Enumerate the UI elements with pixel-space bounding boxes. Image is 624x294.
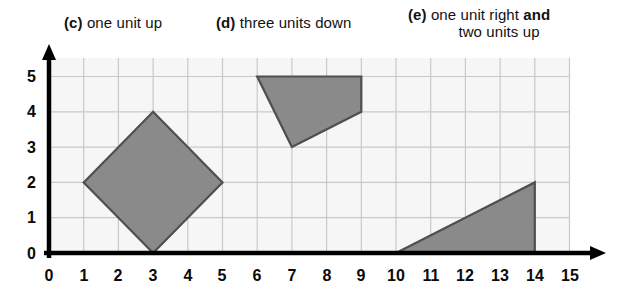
x-axis-arrow [590,246,606,260]
x-tick-7: 7 [282,267,302,285]
x-tick-2: 2 [108,267,128,285]
x-tick-13: 13 [490,267,510,285]
x-tick-3: 3 [143,267,163,285]
y-tick-1: 1 [18,209,36,227]
x-tick-9: 9 [351,267,371,285]
x-tick-6: 6 [247,267,267,285]
x-tick-8: 8 [317,267,337,285]
x-tick-11: 11 [421,267,441,285]
y-tick-2: 2 [18,174,36,192]
x-tick-4: 4 [178,267,198,285]
x-tick-14: 14 [525,267,545,285]
y-tick-4: 4 [18,103,36,121]
y-tick-5: 5 [18,68,36,86]
x-tick-10: 10 [386,267,406,285]
x-tick-1: 1 [74,267,94,285]
x-tick-12: 12 [455,267,475,285]
y-tick-0: 0 [18,245,36,263]
x-tick-5: 5 [212,267,232,285]
y-axis-arrow [42,44,56,60]
x-tick-0: 0 [39,267,59,285]
coordinate-grid-figure: (c) one unit up (d) three units down (e)… [0,0,624,294]
y-tick-3: 3 [18,139,36,157]
x-tick-15: 15 [560,267,580,285]
plot-area [0,0,624,294]
